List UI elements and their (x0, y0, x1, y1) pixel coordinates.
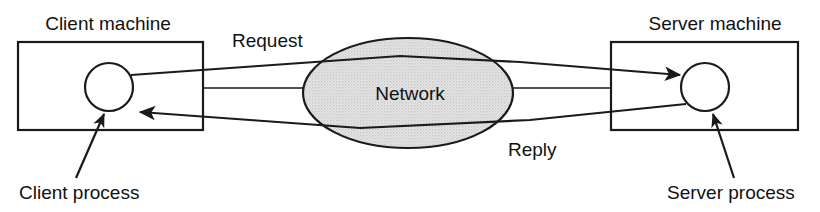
client-process-circle (85, 63, 133, 111)
diagram-canvas: Client machine Server machine Network Re… (0, 0, 820, 212)
client-machine-label: Client machine (45, 13, 171, 34)
network-label: Network (375, 83, 445, 104)
request-label: Request (232, 30, 303, 51)
client-process-label: Client process (19, 182, 139, 203)
server-process-circle (681, 63, 729, 111)
server-process-label: Server process (667, 182, 795, 203)
client-server-diagram: Client machine Server machine Network Re… (0, 0, 820, 212)
reply-label: Reply (508, 139, 557, 160)
server-machine-label: Server machine (648, 13, 781, 34)
